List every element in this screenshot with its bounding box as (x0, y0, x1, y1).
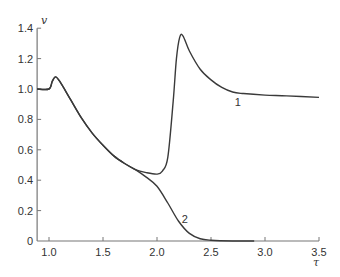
y-axis-label: v (41, 14, 48, 27)
chart: 1.01.52.02.53.03.500.20.40.60.81.01.21.4… (0, 0, 340, 277)
y-tick-label: 1.4 (18, 22, 33, 34)
y-tick-label: 0.6 (18, 144, 33, 156)
x-axis-label: τ (313, 256, 320, 269)
x-tick-label: 3.0 (257, 246, 272, 258)
y-tick-label: 1.2 (18, 53, 33, 65)
labels: vτ12 (41, 14, 320, 269)
x-tick-label: 2.5 (203, 246, 218, 258)
x-tick-label: 2.0 (149, 246, 164, 258)
y-tick-label: 0.4 (18, 174, 33, 186)
curve-2 (37, 77, 254, 241)
curve-label-1: 1 (235, 96, 241, 108)
curve-1 (37, 34, 319, 174)
y-tick-label: 0 (27, 235, 33, 247)
axes: 1.01.52.02.53.03.500.20.40.60.81.01.21.4 (18, 22, 327, 258)
y-tick-label: 0.2 (18, 205, 33, 217)
y-tick-label: 0.8 (18, 113, 33, 125)
curves (37, 34, 319, 241)
y-tick-label: 1.0 (18, 83, 33, 95)
curve-label-2: 2 (182, 213, 188, 225)
x-tick-label: 1.5 (95, 246, 110, 258)
x-tick-label: 1.0 (41, 246, 56, 258)
